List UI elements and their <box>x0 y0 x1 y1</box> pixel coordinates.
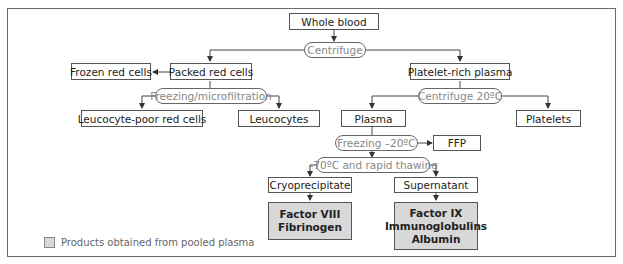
node-supernatant: Supernatant <box>394 177 478 193</box>
product-fibrinogen: Fibrinogen <box>278 221 342 234</box>
product-albumin: Albumin <box>412 233 461 246</box>
node-platelet-rich-plasma: Platelet-rich plasma <box>410 63 510 80</box>
node-ffp: FFP <box>433 135 481 151</box>
step-minus70-rapid-thawing: –70ºC and rapid thawing <box>316 157 430 173</box>
legend-label: Products obtained from pooled plasma <box>61 237 255 248</box>
product-immunoglobulins: Immunoglobulins <box>385 220 487 233</box>
node-leucocytes: Leucocytes <box>238 110 320 127</box>
node-platelets: Platelets <box>516 110 581 127</box>
product-factor-viii: Factor VIII <box>280 208 341 221</box>
step-centrifuge: Centrifuge <box>304 42 366 58</box>
node-packed-red-cells: Packed red cells <box>170 63 252 80</box>
node-leucocyte-poor-red-cells: Leucocyte-poor red cells <box>81 110 203 127</box>
node-plasma: Plasma <box>341 110 406 127</box>
step-freezing-minus20: Freezing –20ºC <box>335 135 418 151</box>
step-centrifuge-20c: Centrifuge 20ºC <box>418 88 502 104</box>
node-frozen-red-cells: Frozen red cells <box>71 63 151 80</box>
node-whole-blood: Whole blood <box>289 13 379 30</box>
product-factor-ix: Factor IX <box>410 207 463 220</box>
product-supernatant: Factor IX Immunoglobulins Albumin <box>394 202 478 250</box>
product-cryoprecipitate: Factor VIII Fibrinogen <box>268 202 352 240</box>
step-freezing-microfiltration: Freezing/microfiltration <box>155 88 267 104</box>
legend: Products obtained from pooled plasma <box>44 237 255 248</box>
node-cryoprecipitate: Cryoprecipitate <box>268 177 352 193</box>
legend-swatch-icon <box>44 237 55 248</box>
